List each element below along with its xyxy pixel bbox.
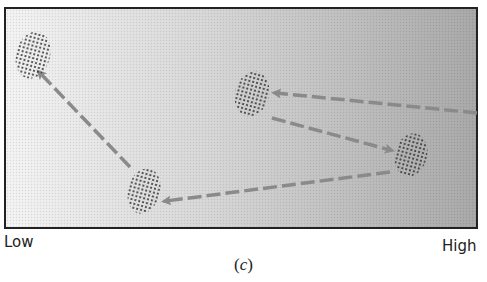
figure-caption: (c) xyxy=(234,255,253,275)
caption-close: ) xyxy=(247,255,253,274)
low-label: Low xyxy=(4,233,34,251)
gradient-panel xyxy=(5,8,477,228)
gradient-diagram xyxy=(0,0,487,282)
high-label: High xyxy=(442,237,476,255)
